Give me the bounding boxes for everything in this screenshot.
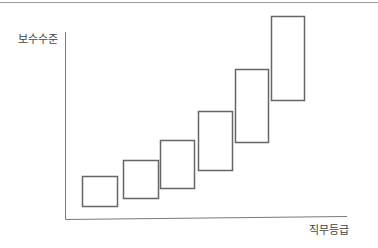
x-axis-label: 직무등급 [309,221,349,237]
y-axis-label: 보수수준 [18,30,58,46]
pay-band-boxes [83,17,305,207]
pay-band-box-grade-3 [161,141,195,189]
pay-band-box-grade-2 [124,161,159,199]
pay-band-box-grade-5 [236,70,269,143]
pay-band-box-grade-6 [272,17,305,101]
pay-band-box-grade-1 [83,177,118,207]
x-axis [66,217,348,220]
pay-band-box-grade-4 [199,112,233,171]
